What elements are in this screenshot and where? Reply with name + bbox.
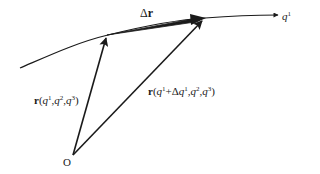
delta-symbol: Δ [140,6,148,20]
origin-label: O [63,157,71,168]
delta-r-arrowhead-icon [190,14,206,25]
r-close: ) [75,94,79,106]
r2-close: ) [211,85,215,97]
q1-axis-sup: 1 [288,10,292,18]
delta-r-vector [107,19,195,36]
coordinate-curve [20,15,278,68]
delta-r-label: Δr [140,7,153,19]
delta-r-bold: r [148,6,153,20]
r-vector-label: r(q1,q2,q3) [34,95,79,106]
q1-axis-label: q1 [282,11,291,22]
r-shifted-vector-label: r(q1+Δq1,q2,q3) [148,86,215,97]
r2-plus-delta: +Δ [166,85,179,97]
